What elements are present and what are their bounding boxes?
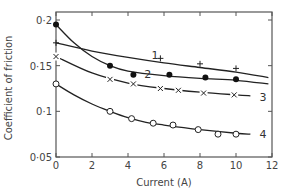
y-tick-label: 0·2 bbox=[36, 15, 52, 26]
filled-circle-marker bbox=[202, 75, 208, 81]
filled-circle-marker bbox=[130, 72, 136, 78]
filled-circle-marker bbox=[233, 76, 239, 82]
open-circle-marker bbox=[129, 116, 135, 122]
filled-circle-marker bbox=[166, 72, 172, 78]
open-circle-marker bbox=[170, 122, 176, 128]
x-tick-label: 12 bbox=[266, 160, 279, 171]
y-tick-label: 0·1 bbox=[36, 106, 52, 117]
y-tick-label: 0·05 bbox=[30, 152, 52, 163]
y-axis-label: Coefficient of friction bbox=[3, 36, 14, 141]
curve-2 bbox=[56, 25, 268, 84]
x-tick-label: 0 bbox=[53, 160, 59, 171]
y-tick-label: 0·15 bbox=[30, 61, 52, 72]
open-circle-marker bbox=[233, 131, 239, 137]
filled-circle-marker bbox=[107, 63, 113, 69]
open-circle-marker bbox=[150, 120, 156, 126]
x-tick-label: 10 bbox=[230, 160, 243, 171]
series-label-2: 2 bbox=[144, 68, 151, 81]
x-tick-label: 2 bbox=[89, 160, 95, 171]
filled-circle-marker bbox=[53, 22, 59, 28]
curve-3 bbox=[56, 57, 250, 96]
y-axis-ticks: 0·050·10·150·2 bbox=[30, 15, 272, 163]
x-tick-label: 8 bbox=[197, 160, 203, 171]
open-circle-marker bbox=[195, 127, 201, 133]
friction-chart: 024681012 0·050·10·150·2 1234 Current (A… bbox=[0, 0, 286, 191]
x-axis-ticks: 024681012 bbox=[53, 12, 279, 171]
series-label-4: 4 bbox=[260, 128, 267, 141]
series-label-1: 1 bbox=[152, 49, 159, 62]
series-label-3: 3 bbox=[260, 91, 267, 104]
x-tick-label: 4 bbox=[125, 160, 131, 171]
x-axis-label: Current (A) bbox=[136, 177, 191, 188]
open-circle-marker bbox=[215, 131, 221, 137]
curve-1 bbox=[56, 43, 268, 78]
x-tick-label: 6 bbox=[161, 160, 167, 171]
open-circle-marker bbox=[53, 81, 59, 87]
open-circle-marker bbox=[107, 108, 113, 114]
